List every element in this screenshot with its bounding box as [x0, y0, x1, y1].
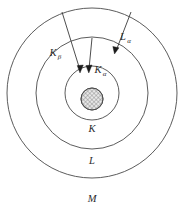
shell-label-m: M — [87, 193, 98, 204]
arrow-head-l-alpha — [113, 46, 119, 54]
arrow-head-k-alpha — [86, 65, 92, 73]
transition-label-l-alpha-main: L — [119, 31, 126, 42]
transition-label-l-alpha-subscript: α — [127, 37, 131, 45]
transition-label-k-beta-main: K — [48, 47, 57, 58]
arrow-head-k-beta — [77, 65, 83, 73]
shell-diagram-canvas: K L M K β K α L α — [0, 0, 189, 210]
transition-label-k-alpha-subscript: α — [103, 70, 107, 78]
transition-label-k-alpha-main: K — [93, 64, 102, 75]
transition-line-k-beta — [62, 12, 80, 70]
atomic-shell-diagram: K L M K β K α L α — [0, 0, 189, 210]
shell-label-k: K — [87, 123, 96, 134]
shell-label-l: L — [88, 155, 95, 166]
transition-line-k-alpha — [89, 38, 92, 69]
nucleus-hatch-overlay-icon — [81, 88, 103, 110]
transition-label-k-beta-subscript: β — [57, 53, 62, 61]
